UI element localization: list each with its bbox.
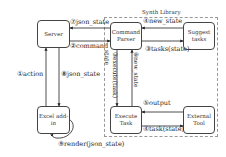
edge-label-7: ⑦json_state bbox=[70, 19, 109, 26]
edge-label-3b: ③tasks(state) bbox=[145, 46, 189, 53]
command-parser-node: Command Parser bbox=[110, 22, 142, 50]
edge-label-3: ③execute(task) bbox=[112, 52, 119, 98]
edge-label-5: ⑤output bbox=[143, 100, 171, 107]
external-tool-node: External Tool bbox=[183, 106, 215, 134]
excel-addin-node: Excel add-in bbox=[37, 106, 70, 134]
edge-label-4: ④new_state bbox=[143, 18, 182, 25]
edge-label-2-state: state bbox=[104, 50, 111, 65]
server-node: Server bbox=[37, 20, 70, 48]
edge-label-8: ⑧json_state bbox=[61, 71, 100, 78]
edge-label-6: ⑥new_state bbox=[133, 52, 140, 88]
edge-label-1: ①action bbox=[17, 71, 43, 78]
edge-label-4b: ④task(state) bbox=[143, 126, 184, 133]
execute-task-node: Execute Task bbox=[110, 106, 142, 134]
edge-label-2: ②command bbox=[70, 43, 108, 50]
edge-label-9: ⑨render(json_state) bbox=[58, 141, 124, 148]
